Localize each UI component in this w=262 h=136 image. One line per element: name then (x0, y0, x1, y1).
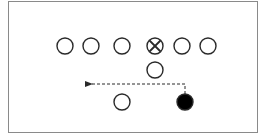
player-quarterback (147, 62, 163, 78)
player-back-left (114, 94, 130, 110)
open-circle-icon (147, 62, 163, 78)
open-circle-icon (114, 38, 130, 54)
player-ball-carrier (177, 94, 193, 110)
player-lineman-6 (200, 38, 216, 54)
play-diagram (0, 0, 262, 136)
open-circle-icon (83, 38, 99, 54)
player-lineman-2 (83, 38, 99, 54)
player-lineman-5 (174, 38, 190, 54)
open-circle-icon (114, 94, 130, 110)
filled-circle-icon (177, 94, 193, 110)
open-circle-icon (200, 38, 216, 54)
player-lineman-1 (57, 38, 73, 54)
player-center (147, 38, 163, 54)
open-circle-icon (57, 38, 73, 54)
route-arrow (92, 84, 185, 94)
player-lineman-3 (114, 38, 130, 54)
open-circle-icon (174, 38, 190, 54)
